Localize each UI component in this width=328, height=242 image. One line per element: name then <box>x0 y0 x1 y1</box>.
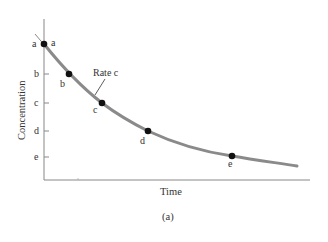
y-axis-label: Concentration <box>16 80 27 140</box>
decay-curve <box>44 44 297 166</box>
point-label-a: a <box>51 37 56 48</box>
point-label-d: d <box>140 135 145 146</box>
figure-caption: (a) <box>162 211 174 223</box>
data-point-d <box>145 128 152 135</box>
y-tick-label-b: b <box>34 68 39 79</box>
concentration-time-chart: a b c d e Concentration Time (a) a b c d… <box>0 0 328 242</box>
y-tick-label-c: c <box>34 97 39 108</box>
point-label-c: c <box>93 104 98 115</box>
rate-annotation: Rate c <box>93 67 119 78</box>
y-ticks <box>44 74 49 157</box>
data-point-a <box>41 41 48 48</box>
data-point-c <box>99 100 106 107</box>
y-tick-label-a: a <box>32 38 37 49</box>
point-label-b: b <box>60 78 65 89</box>
y-tick-label-d: d <box>34 125 39 136</box>
point-label-e: e <box>228 158 233 169</box>
x-axis-label: Time <box>160 186 182 197</box>
data-point-b <box>66 71 73 78</box>
rate-annotation-pointer <box>95 79 105 95</box>
y-tick-label-e: e <box>34 151 39 162</box>
